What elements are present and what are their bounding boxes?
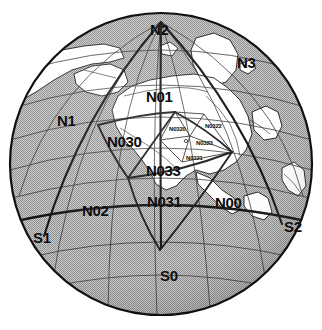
qtm-label-n030: N030 [107,134,142,149]
qtm-label-n1: N1 [57,113,76,128]
qtm-globe-figure: N2 N3 N01 N1 N030 N033 N02 N031 N00 S1 S… [0,0,322,330]
qtm-label-s2: S2 [284,219,302,234]
qtm-label-n02: N02 [82,203,109,218]
qtm-label-n0321: N0321 [186,155,203,161]
qtm-label-n0322: N0322 [205,123,222,129]
qtm-label-n2: N2 [150,22,169,37]
qtm-label-n00: N00 [215,195,242,210]
qtm-label-s1: S1 [33,230,51,245]
qtm-label-n01: N01 [146,89,173,104]
qtm-label-n3: N3 [237,55,256,70]
qtm-label-n031: N031 [147,194,182,209]
qtm-label-n0320: N0320 [169,126,186,132]
qtm-label-n033: N033 [146,163,181,178]
qtm-label-n0323: N0323 [196,140,213,146]
qtm-label-s0: S0 [160,268,178,283]
